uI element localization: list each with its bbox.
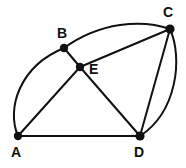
vertex-dot-c <box>165 24 174 33</box>
vertex-label-b: B <box>57 26 67 40</box>
vertex-label-a: A <box>11 145 21 159</box>
figure-canvas <box>0 0 186 168</box>
segment-c-to-d <box>140 29 170 136</box>
vertex-label-e: E <box>89 62 98 76</box>
vertex-label-d: D <box>134 145 144 159</box>
vertex-dot-d <box>135 131 144 140</box>
segment-e-to-d <box>80 67 140 136</box>
vertex-dot-e <box>76 63 84 71</box>
vertex-dot-a <box>14 132 22 140</box>
geometry-figure: A B C D E <box>0 0 186 168</box>
vertex-label-c: C <box>163 5 173 19</box>
vertex-dot-b <box>60 44 68 52</box>
